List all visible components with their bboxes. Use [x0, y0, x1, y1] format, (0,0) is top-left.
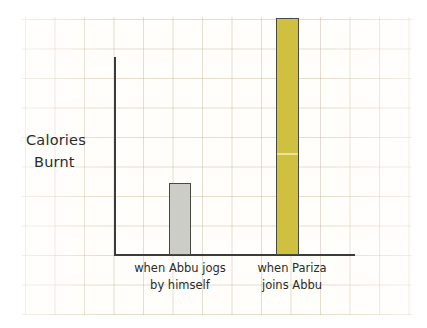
chart-canvas: Calories Burnt when Abbu jogs by himself… [0, 0, 427, 328]
bar-when-abbu-jogs-by-himself [169, 183, 191, 255]
y-axis-title-line-1: Calories [26, 129, 112, 151]
y-axis-title: Calories Burnt [26, 129, 112, 173]
category-label-1-line-1: when Pariza [257, 261, 326, 275]
x-axis-line [114, 254, 355, 256]
category-label-1-line-2: joins Abbu [222, 277, 362, 294]
y-axis-line [114, 57, 116, 256]
x-axis-category-label-1: when Pariza joins Abbu [222, 260, 362, 294]
plot-area: Calories Burnt when Abbu jogs by himself… [0, 0, 427, 328]
category-label-0-line-1: when Abbu jogs [134, 261, 226, 275]
bar-when-pariza-joins-abbu [276, 18, 299, 255]
y-axis-title-line-2: Burnt [34, 151, 112, 173]
